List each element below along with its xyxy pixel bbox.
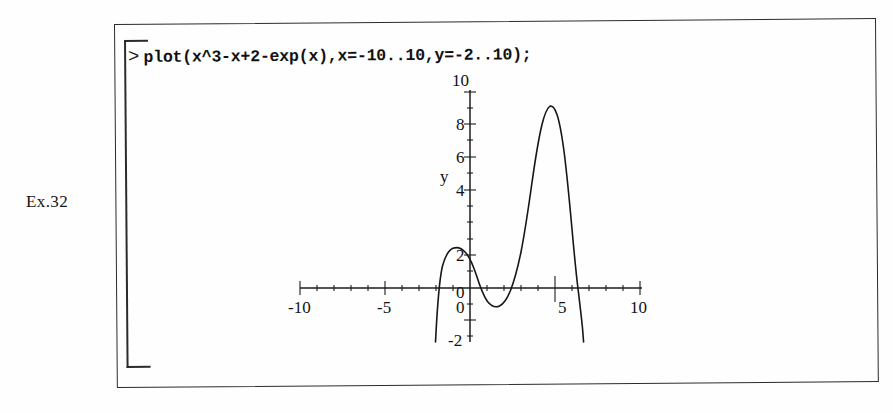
plot-svg: -10 -5 0 5 10 -2 0 2 4 6 8 10 y xyxy=(270,70,670,360)
y-axis-label: y xyxy=(440,167,449,186)
exercise-number-label: Ex.32 xyxy=(26,192,68,212)
x-tick-label-10: 10 xyxy=(630,298,647,317)
y-tick-label-8: 8 xyxy=(456,115,465,134)
x-tick-label-5: 5 xyxy=(558,298,567,317)
y-tick-label-2: 2 xyxy=(456,246,465,265)
maple-execution-group-bracket xyxy=(124,40,151,368)
y-tick-label-6: 6 xyxy=(456,148,465,167)
maple-input-line[interactable]: > plot(x^3-x+2-exp(x),x=-10..10,y=-2..10… xyxy=(128,45,532,67)
maple-command-text[interactable]: plot(x^3-x+2-exp(x),x=-10..10,y=-2..10); xyxy=(143,45,531,67)
y-tick-label-zero: 0 xyxy=(456,283,465,302)
x-tick-label-minus5: -5 xyxy=(377,298,391,317)
x-tick-label-minus10: -10 xyxy=(288,298,311,317)
y-tick-label-10: 10 xyxy=(452,71,469,90)
plot-output-region: -10 -5 0 5 10 -2 0 2 4 6 8 10 y xyxy=(270,70,670,360)
y-tick-label-4: 4 xyxy=(456,181,465,200)
y-tick-label-minus2: -2 xyxy=(448,331,462,350)
maple-prompt-icon: > xyxy=(128,48,140,67)
